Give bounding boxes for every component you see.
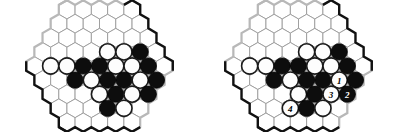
move-number-label: 3 — [328, 90, 334, 100]
black-stone[interactable] — [140, 86, 156, 102]
black-stone[interactable] — [100, 100, 116, 116]
black-stone[interactable] — [148, 72, 164, 88]
white-stone[interactable] — [59, 58, 75, 74]
black-stone[interactable] — [266, 72, 282, 88]
board-canvas: 1324 — [199, 0, 398, 132]
black-stone[interactable] — [67, 72, 83, 88]
black-stone[interactable] — [299, 100, 315, 116]
white-stone[interactable] — [116, 100, 132, 116]
black-stone[interactable] — [347, 72, 363, 88]
white-stone[interactable] — [108, 58, 124, 74]
board-canvas — [0, 0, 199, 132]
white-stone[interactable] — [91, 86, 107, 102]
move-number-label: 4 — [287, 104, 293, 114]
white-stone[interactable] — [307, 58, 323, 74]
move-number-label: 2 — [344, 90, 350, 100]
right-board: 1324 — [199, 0, 398, 132]
white-stone[interactable] — [43, 58, 59, 74]
left-board — [0, 0, 199, 132]
move-number-label: 1 — [337, 76, 342, 86]
hex-board-figure: 1324 — [0, 0, 398, 132]
white-stone[interactable] — [315, 100, 331, 116]
white-stone[interactable] — [258, 58, 274, 74]
white-stone[interactable] — [242, 58, 258, 74]
